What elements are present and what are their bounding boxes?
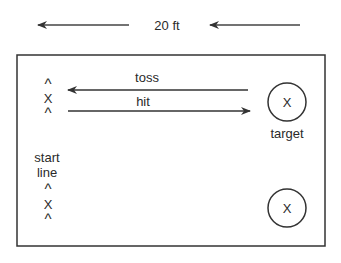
field-boundary — [17, 55, 325, 246]
start-line-label: start line — [34, 150, 60, 180]
distance-indicator: 20 ft — [38, 18, 300, 33]
hit-label: hit — [136, 94, 150, 109]
player-top-symbol-3: ^ — [44, 104, 51, 121]
player-bottom-symbol-1: ^ — [44, 180, 51, 197]
target-bottom: X — [268, 189, 306, 227]
player-top-symbol-1: ^ — [44, 75, 51, 92]
hit-arrow-group: hit — [68, 94, 250, 111]
target-top-mark: X — [283, 95, 292, 110]
player-top: ^ X ^ — [44, 75, 53, 121]
drill-diagram: 20 ft ^ X ^ toss hit X target start line… — [0, 0, 341, 263]
start-line-label-1: start — [34, 150, 60, 165]
target-top: X target — [268, 83, 306, 141]
toss-arrow-group: toss — [68, 70, 248, 90]
target-label: target — [270, 126, 304, 141]
start-line-label-2: line — [37, 165, 57, 180]
player-bottom: ^ X ^ — [44, 180, 53, 227]
toss-label: toss — [135, 70, 159, 85]
player-bottom-symbol-3: ^ — [44, 210, 51, 227]
distance-label: 20 ft — [154, 18, 180, 33]
target-bottom-mark: X — [283, 201, 292, 216]
